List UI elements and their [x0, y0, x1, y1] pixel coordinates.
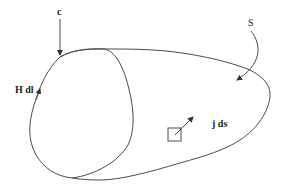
normal-vector-arrow-icon	[175, 117, 193, 135]
label-s: S	[248, 17, 254, 28]
surface-outline	[60, 49, 270, 180]
label-j-ds: j ds	[211, 118, 227, 129]
stokes-surface-diagram: c S H dl j ds	[0, 0, 285, 194]
area-element-square	[168, 128, 181, 141]
label-h-dl: H dl	[15, 84, 34, 95]
h-dl-arrow-icon	[36, 89, 40, 100]
curve-c-loop	[30, 49, 133, 178]
label-c: c	[57, 6, 62, 17]
